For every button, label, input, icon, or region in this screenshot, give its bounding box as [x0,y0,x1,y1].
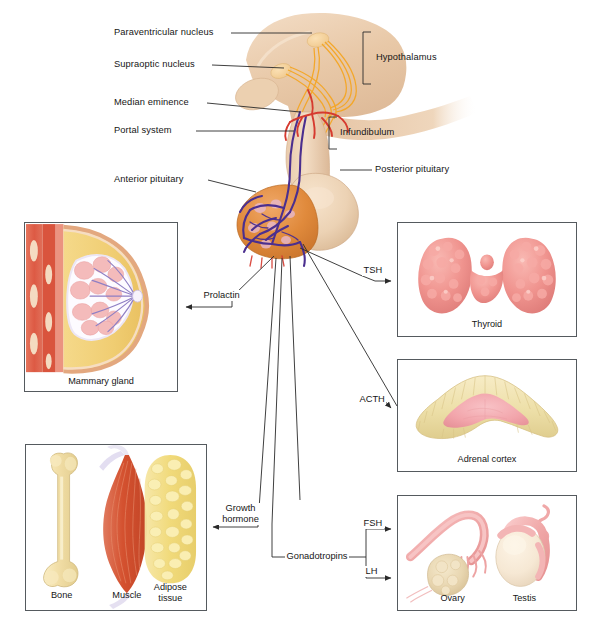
label-paraventricular-nucleus: Paraventricular nucleus [114,27,213,38]
label-hypothalamus: Hypothalamus [376,52,437,63]
label-median-eminence: Median eminence [114,97,189,108]
label-prolactin: Prolactin [202,290,241,301]
leader-supraoptic [212,65,284,68]
bracket-infundibulum [329,117,337,149]
label-anterior-pituitary: Anterior pituitary [114,174,184,185]
leader-median-eminence [207,103,300,112]
label-infundibulum: Infundibulum [340,127,394,138]
label-tsh: TSH [362,265,384,276]
bracket-hypothalamus [363,32,371,84]
label-supraoptic-nucleus: Supraoptic nucleus [114,59,195,70]
annotation-lines [0,0,601,630]
label-gonadotropins: Gonadotropins [285,551,349,562]
label-acth: ACTH [358,394,386,405]
label-portal-system: Portal system [114,125,172,136]
hormone-connector-fan [232,244,397,524]
leader-anterior-pituitary [208,180,256,192]
label-growth-hormone-line2: hormone [214,514,267,525]
arrow-tsh [360,275,391,281]
label-fsh: FSH [362,518,384,529]
label-growth-hormone-line1: Growth [214,503,267,514]
label-posterior-pituitary: Posterior pituitary [375,164,449,175]
diagram-canvas: Mammary gland [0,0,601,630]
label-lh: LH [364,566,379,577]
